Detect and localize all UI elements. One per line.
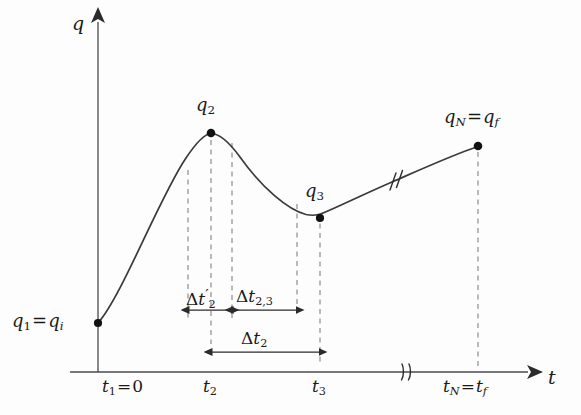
tick-label-t1: t1=0 — [102, 378, 143, 397]
qt-trajectory-figure: q t q1=qi q2 q3 qN=qf t1=0 t2 t3 tN=tf Δ… — [0, 0, 581, 415]
point-label-q3: q3 — [305, 182, 324, 203]
point-label-qN: qN=qf — [444, 108, 499, 129]
node-dot-qN — [474, 142, 483, 151]
trajectory-curve — [98, 134, 478, 324]
tick-label-tN: tN=tf — [443, 378, 487, 397]
point-label-q1: q1=qi — [12, 312, 64, 333]
tick-label-t3: t3 — [312, 378, 326, 397]
point-label-q2: q2 — [196, 96, 215, 117]
interval-label-dt23: Δt2,3 — [236, 288, 273, 307]
plot-canvas — [0, 0, 581, 415]
node-dot-q1 — [94, 319, 102, 327]
node-dot-q3 — [316, 214, 324, 222]
tick-label-t2: t2 — [203, 378, 217, 397]
interval-label-dt2-prime: Δt′2 — [186, 288, 216, 311]
curve-segment-q3-qN — [322, 147, 478, 214]
axis-lines — [70, 22, 528, 372]
node-dot-q2 — [207, 129, 216, 138]
node-dots — [94, 129, 482, 327]
y-axis-label: q — [72, 14, 84, 33]
x-axis-label: t — [548, 368, 556, 387]
interval-label-dt2: Δt2 — [241, 330, 267, 349]
